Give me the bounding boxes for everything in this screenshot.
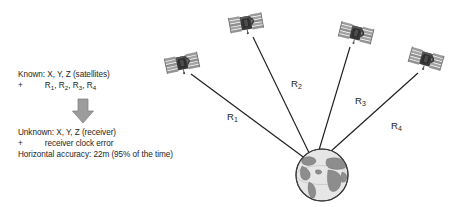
- range-term-3: R3: [73, 81, 83, 90]
- range-label-R1: R1: [227, 111, 238, 122]
- down-arrow-icon: [73, 99, 94, 123]
- receiver-clock-error-text: receiver clock error: [45, 139, 114, 148]
- earth-globe: [296, 149, 348, 201]
- range-term-4: R4: [87, 81, 97, 90]
- range-line-4: [320, 73, 418, 161]
- horizontal-accuracy-text: Horizontal accuracy: 22m (95% of the tim…: [18, 149, 173, 160]
- satellite-3: [337, 21, 375, 48]
- unknown-line-1: Unknown: X, Y, Z (receiver): [18, 127, 173, 138]
- range-label-R4: R4: [391, 120, 402, 131]
- satellite-4: [407, 47, 445, 75]
- range-label-R3: R3: [355, 95, 366, 106]
- range-term-1: R1: [45, 81, 55, 90]
- range-line-3: [316, 47, 350, 160]
- range-label-R2: R2: [291, 78, 302, 89]
- satellite-2: [228, 12, 265, 37]
- known-line-2: +R1, R2, R3, R4: [18, 80, 110, 91]
- gps-trilateration-diagram: Known: X, Y, Z (satellites) +R1, R2, R3,…: [0, 0, 468, 207]
- range-lines: [191, 37, 418, 162]
- known-quantities-block: Known: X, Y, Z (satellites) +R1, R2, R3,…: [18, 69, 110, 91]
- unknown-plus-sign: +: [18, 139, 23, 148]
- known-line-1: Known: X, Y, Z (satellites): [18, 69, 110, 80]
- diagram-canvas: [0, 0, 468, 207]
- known-plus-sign: +: [18, 81, 23, 90]
- satellite-1: [164, 52, 201, 78]
- unknown-line-2: +receiver clock error: [18, 138, 173, 149]
- range-term-2: R2: [59, 81, 69, 90]
- unknown-quantities-block: Unknown: X, Y, Z (receiver) +receiver cl…: [18, 127, 173, 160]
